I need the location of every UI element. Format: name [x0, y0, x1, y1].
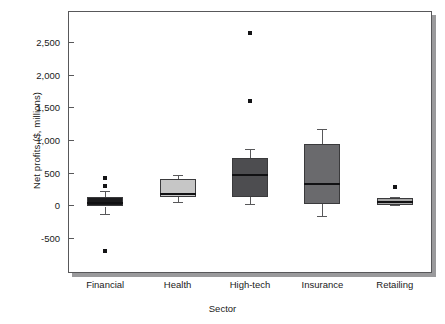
x-tick-label: Financial: [86, 279, 124, 290]
chart-root: 2,5002,0001,5001,0005000-500 FinancialHe…: [0, 0, 445, 324]
x-tick-label: Retailing: [376, 279, 413, 290]
x-axis-ticks: FinancialHealthHigh-techInsuranceRetaili…: [0, 0, 445, 324]
x-tick-label: Health: [164, 279, 191, 290]
x-tick-label: Insurance: [302, 279, 344, 290]
x-axis-title: Sector: [0, 303, 445, 314]
y-axis-title: Net profits ($, millions): [31, 41, 42, 241]
x-tick-label: High-tech: [230, 279, 271, 290]
